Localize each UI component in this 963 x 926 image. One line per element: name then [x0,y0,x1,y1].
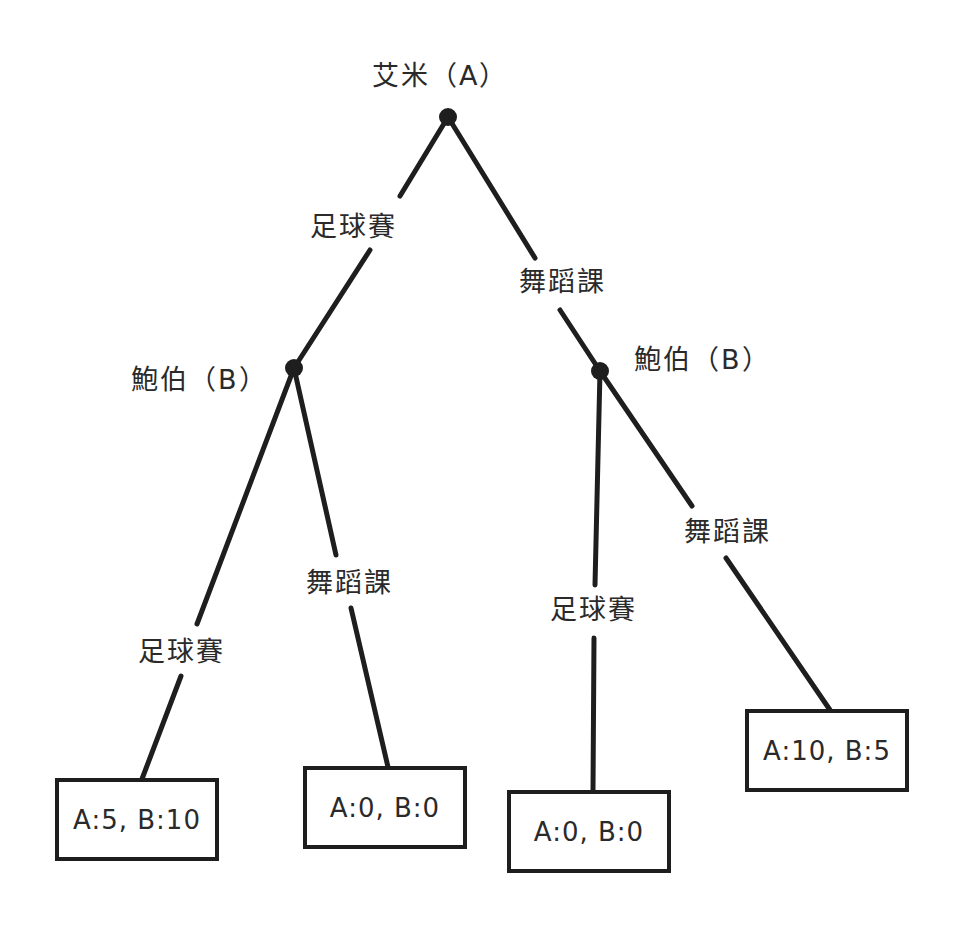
edge-root-soccer-lower [294,250,370,368]
edge-root-dance-lower [560,310,600,371]
edge-label-root-soccer: 足球賽 [310,213,397,240]
edge-left-dance-lower [351,608,388,767]
edge-right-soccer-lower [593,638,594,791]
edge-left-dance-upper [294,368,336,555]
edge-label-root-dance: 舞蹈課 [519,268,606,295]
edge-right-soccer-upper [595,371,600,585]
payoff-box-soccer-dance: A:0, B:0 [303,766,467,849]
right-b-node-dot [591,362,609,380]
payoff-box-dance-soccer: A:0, B:0 [507,790,671,873]
root-node-dot [439,108,457,126]
edge-right-dance-upper [600,371,692,506]
left-node-player-label: 鮑伯（B） [131,366,268,393]
edge-root-dance-upper [448,117,535,258]
edge-left-soccer-upper [197,368,294,624]
edge-label-left-soccer: 足球賽 [138,638,225,665]
edge-left-soccer-lower [142,676,181,779]
payoff-text: A:0, B:0 [330,793,440,823]
edge-root-soccer-upper [400,117,448,196]
edge-label-right-soccer: 足球賽 [550,596,637,623]
root-player-label: 艾米（A） [372,62,508,89]
left-b-node-dot [285,359,303,377]
edge-right-dance-lower [726,558,830,710]
payoff-text: A:5, B:10 [73,805,201,835]
payoff-text: A:10, B:5 [763,736,891,766]
payoff-box-dance-dance: A:10, B:5 [745,709,909,792]
edge-label-right-dance: 舞蹈課 [684,518,771,545]
edge-label-left-dance: 舞蹈課 [306,569,393,596]
payoff-box-soccer-soccer: A:5, B:10 [55,778,219,861]
payoff-text: A:0, B:0 [534,817,644,847]
right-node-player-label: 鮑伯（B） [634,346,771,373]
